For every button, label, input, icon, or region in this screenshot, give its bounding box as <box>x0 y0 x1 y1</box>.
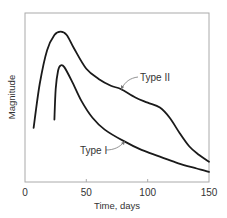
x-axis-label: Time, days <box>94 200 140 211</box>
supernova-light-curve-chart: 0 50 100 150 Time, days Magnitude Type I… <box>0 0 227 218</box>
x-axis-tick-labels: 0 50 100 150 <box>22 187 218 198</box>
type-ii-leader-line <box>122 77 138 88</box>
x-tick-label: 0 <box>22 187 28 198</box>
type-ii-curve <box>34 32 209 162</box>
x-tick-label: 50 <box>81 187 93 198</box>
x-tick-label: 150 <box>201 187 218 198</box>
y-axis-label: Magnitude <box>6 75 17 119</box>
type-i-label: Type I <box>80 145 107 156</box>
type-ii-label: Type II <box>140 72 170 83</box>
x-tick-label: 100 <box>139 187 156 198</box>
type-i-curve <box>54 65 209 172</box>
